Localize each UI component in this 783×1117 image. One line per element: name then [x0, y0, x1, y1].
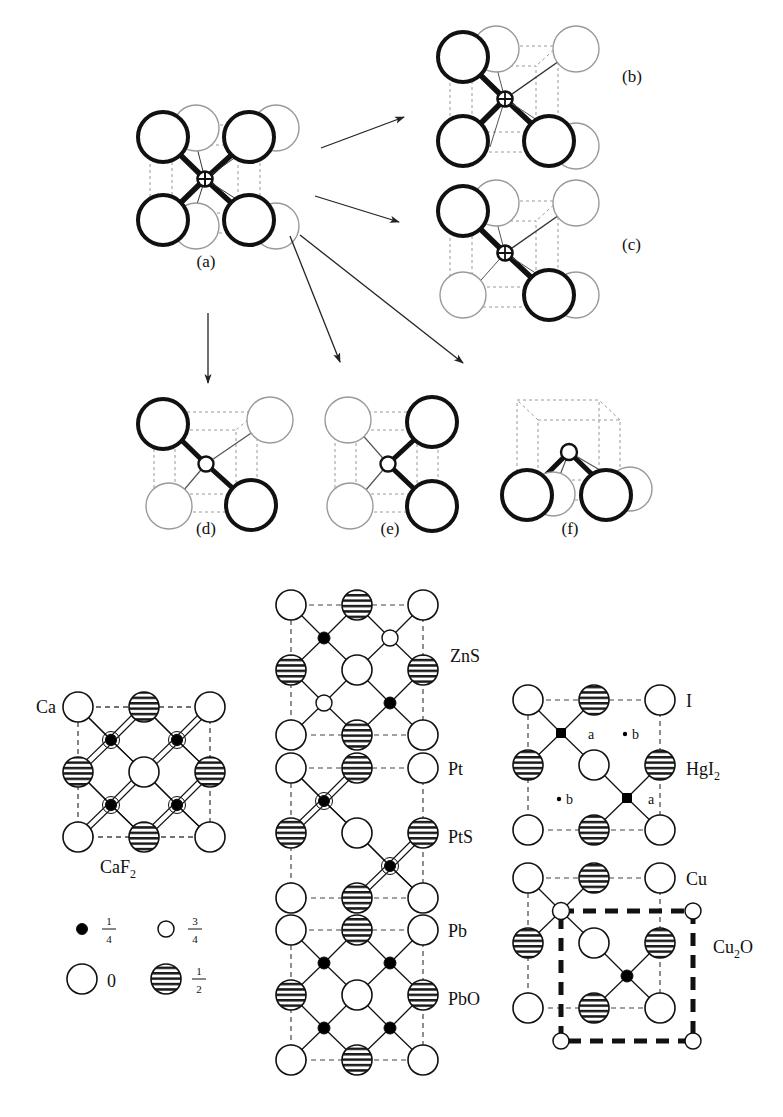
hgi2-site-b-top-dot	[623, 732, 627, 736]
figure-canvas: (a)	[0, 0, 783, 1117]
zns-formula: ZnS	[450, 646, 480, 666]
legend-half-denominator: 2	[196, 983, 202, 995]
panel-d-label: (d)	[196, 519, 216, 538]
cu2o-site-three-quarter	[553, 903, 570, 920]
panel-f-label: (f)	[562, 519, 579, 538]
pbo-formula: PbO	[448, 989, 480, 1009]
hgi2-atoms	[513, 685, 675, 845]
pbo-atoms	[276, 915, 438, 1075]
hgi2-site-a-bottom	[622, 793, 632, 803]
pts-atoms	[276, 753, 438, 913]
panel-e-label: (e)	[381, 519, 400, 538]
cu2o-atoms	[513, 863, 675, 1023]
crystal-structure-figure: (a)	[0, 0, 783, 1117]
hgi2-site-a-label-bottom: a	[648, 792, 655, 807]
cu2o-site-quarter	[621, 970, 633, 982]
caf2-atoms	[63, 692, 225, 852]
pts-formula: PtS	[448, 827, 473, 847]
panel-a-label: (a)	[197, 252, 216, 271]
panel-d-central-atom	[199, 457, 214, 472]
legend-zero-value: 0	[107, 971, 116, 991]
panel-c-label: (c)	[622, 235, 641, 254]
cu2o-anion-label: Cu	[686, 869, 707, 889]
legend-three-quarter-denominator: 4	[192, 933, 198, 945]
pbo-anion-label: Pb	[448, 921, 467, 941]
legend-half-numerator: 1	[196, 965, 202, 977]
small-filled-circle-icon	[77, 924, 88, 935]
legend-three-quarter-numerator: 3	[192, 915, 198, 927]
hgi2-site-b-label-top: b	[632, 727, 639, 742]
hgi2-anion-label: I	[686, 691, 692, 711]
zns-site-quarter-tl	[318, 632, 330, 644]
pts-anion-label: Pt	[448, 759, 463, 779]
hgi2-site-a-top	[556, 728, 566, 738]
hgi2-site-b-bottom-dot	[557, 797, 561, 801]
zns-atoms	[276, 590, 438, 750]
zns-site-three-quarter-bl	[316, 695, 332, 711]
legend-quarter-denominator: 4	[106, 933, 112, 945]
large-open-circle-icon	[67, 964, 97, 994]
cu2o-corner-site-br	[685, 1033, 701, 1049]
large-hatched-circle-icon	[151, 964, 181, 994]
panel-b-label: (b)	[622, 67, 642, 86]
panel-e-central-atom	[381, 457, 396, 472]
hgi2-site-b-label-bottom: b	[566, 792, 573, 807]
legend-quarter-numerator: 1	[106, 915, 112, 927]
panel-f-central-atom	[561, 444, 577, 460]
hgi2-site-a-label-top: a	[588, 727, 595, 742]
zns-site-three-quarter-tr	[382, 630, 398, 646]
cu2o-corner-site-bl	[553, 1033, 569, 1049]
zns-site-quarter-br	[384, 697, 396, 709]
small-open-circle-icon	[158, 921, 174, 937]
cu2o-corner-site-tr	[685, 903, 701, 919]
caf2-cation-label: Ca	[36, 697, 56, 717]
